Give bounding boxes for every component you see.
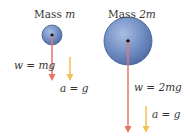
large-mass-accel-arrow (143, 106, 150, 133)
large-mass-accel-label: a = g (152, 109, 180, 120)
small-mass-title-prefix: Mass (34, 8, 65, 20)
small-mass-weight-label: w = mg (14, 60, 55, 71)
large-mass-title-var: 2m (139, 8, 156, 20)
small-mass-accel-label: a = g (60, 83, 88, 94)
large-mass-title-prefix: Mass (108, 8, 139, 20)
free-fall-diagram: Mass m w = mg a = g Mass 2m w = 2mg a = … (0, 0, 190, 138)
large-mass-title: Mass 2m (108, 9, 156, 20)
small-mass-accel-arrow (67, 57, 74, 81)
small-mass-title-var: m (65, 8, 75, 20)
large-mass-weight-label: w = 2mg (134, 82, 182, 93)
small-mass-title: Mass m (34, 9, 75, 20)
